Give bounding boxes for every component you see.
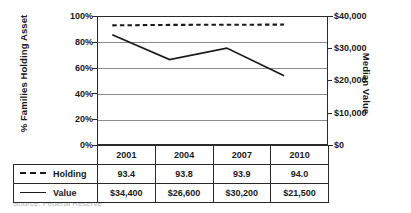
left-tick-80: 80% bbox=[75, 37, 93, 47]
right-tick-0: $0 bbox=[334, 140, 344, 150]
left-tick-100: 100% bbox=[70, 11, 93, 21]
right-tickmark-20000 bbox=[328, 80, 332, 81]
right-tick-40000: $40,000 bbox=[334, 11, 367, 21]
left-tick-60: 60% bbox=[75, 63, 93, 73]
table-header-2010: 2010 bbox=[271, 146, 329, 165]
holding-value-2007: 93.9 bbox=[213, 165, 271, 184]
value-2010: $21,500 bbox=[271, 184, 329, 203]
chart-figure: % Families Holding Asset Median Value 10… bbox=[0, 0, 411, 213]
right-tickmark-10000 bbox=[328, 113, 332, 114]
legend-value-label: Value bbox=[53, 188, 77, 198]
table-header-2007: 2007 bbox=[213, 146, 271, 165]
legend-holding: Holding bbox=[14, 165, 98, 184]
table-row-value: Value $34,400 $26,600 $30,200 $21,500 bbox=[14, 184, 329, 203]
table-corner-cell bbox=[14, 146, 98, 165]
value-2007: $30,200 bbox=[213, 184, 271, 203]
value-2004: $26,600 bbox=[155, 184, 213, 203]
left-tick-20: 20% bbox=[75, 114, 93, 124]
right-axis-tick-labels: $40,000 $30,000 $20,000 $10,000 $0 bbox=[334, 0, 404, 213]
solid-line-icon bbox=[20, 192, 46, 193]
holding-value-2001: 93.4 bbox=[98, 165, 156, 184]
left-tick-40: 40% bbox=[75, 89, 93, 99]
plot-area bbox=[97, 16, 328, 145]
table-header-row: 2001 2004 2007 2010 bbox=[14, 146, 329, 165]
holding-value-2010: 94.0 bbox=[271, 165, 329, 184]
right-tick-10000: $10,000 bbox=[334, 108, 367, 118]
value-series-line bbox=[112, 35, 284, 76]
data-table: 2001 2004 2007 2010 Holding 93.4 93.8 93… bbox=[13, 145, 329, 203]
right-tick-30000: $30,000 bbox=[334, 43, 367, 53]
source-note: Source: Federal Reserve bbox=[13, 203, 163, 211]
table-row-holding: Holding 93.4 93.8 93.9 94.0 bbox=[14, 165, 329, 184]
right-tickmark-30000 bbox=[328, 48, 332, 49]
dashed-line-icon bbox=[20, 172, 46, 174]
series-lines bbox=[98, 17, 327, 144]
source-note-text: Source: Federal Reserve bbox=[13, 203, 163, 208]
right-tickmark-40000 bbox=[328, 16, 333, 17]
right-tick-20000: $20,000 bbox=[334, 75, 367, 85]
value-2001: $34,400 bbox=[98, 184, 156, 203]
table-header-2004: 2004 bbox=[155, 146, 213, 165]
legend-value: Value bbox=[14, 184, 98, 203]
holding-value-2004: 93.8 bbox=[155, 165, 213, 184]
legend-holding-label: Holding bbox=[53, 169, 87, 179]
holding-series-line bbox=[112, 25, 284, 26]
left-axis-title: % Families Holding Asset bbox=[18, 0, 29, 149]
table-header-2001: 2001 bbox=[98, 146, 156, 165]
